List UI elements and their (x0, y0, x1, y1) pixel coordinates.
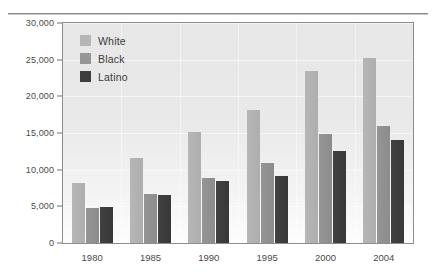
x-axis-tick-label: 2004 (373, 252, 394, 263)
x-axis-tick-label: 2000 (315, 252, 336, 263)
y-axis-tick-label: 25,000 (26, 55, 54, 65)
bar-latino-2000 (333, 151, 346, 243)
legend: White Black Latino (80, 33, 128, 87)
bar-black-1980 (86, 208, 99, 243)
bar-group-1990 (188, 23, 229, 243)
legend-item-latino: Latino (80, 69, 128, 84)
plot-vertical-divider (180, 23, 181, 243)
y-axis-tick-label: 10,000 (26, 165, 54, 175)
bar-white-1985 (130, 158, 143, 243)
plot-vertical-divider (355, 23, 356, 243)
bar-group-1995 (247, 23, 288, 243)
bar-black-1995 (261, 163, 274, 243)
legend-swatch-icon-white (80, 35, 91, 46)
bar-latino-1995 (275, 176, 288, 243)
x-axis: 198019851990199520002004 (62, 244, 414, 274)
bar-latino-1990 (216, 181, 229, 243)
y-axis-tick-label: 20,000 (26, 91, 54, 101)
bar-white-1990 (188, 132, 201, 243)
x-axis-tick-label: 1995 (257, 252, 278, 263)
legend-swatch-icon-black (80, 53, 91, 64)
legend-item-white: White (80, 33, 128, 48)
bar-latino-1985 (158, 195, 171, 243)
y-axis-tick-label: 0 (49, 238, 54, 248)
x-axis-tick-label: 1990 (198, 252, 219, 263)
plot-vertical-divider (296, 23, 297, 243)
bar-white-1980 (72, 183, 85, 243)
plot-vertical-divider (238, 23, 239, 243)
top-divider-rule (8, 13, 428, 15)
bar-latino-1980 (100, 207, 113, 243)
bar-white-1995 (247, 110, 260, 243)
bar-latino-2004 (391, 140, 404, 243)
bar-group-2004 (363, 23, 404, 243)
legend-label-latino: Latino (98, 71, 128, 83)
bar-white-2004 (363, 58, 376, 243)
bar-black-2000 (319, 134, 332, 243)
bar-group-2000 (305, 23, 346, 243)
legend-item-black: Black (80, 51, 128, 66)
y-axis-tick-label: 5,000 (31, 201, 54, 211)
legend-label-white: White (98, 35, 126, 47)
bar-black-1990 (202, 178, 215, 243)
legend-label-black: Black (98, 53, 125, 65)
x-axis-tick-label: 1985 (140, 252, 161, 263)
bar-chart: 05,00010,00015,00020,00025,00030,000 198… (0, 0, 435, 280)
y-axis-tick-label: 15,000 (26, 128, 54, 138)
bar-black-2004 (377, 126, 390, 243)
x-axis-tick-label: 1980 (82, 252, 103, 263)
bar-black-1985 (144, 194, 157, 243)
y-axis: 05,00010,00015,00020,00025,00030,000 (0, 22, 62, 244)
bar-white-2000 (305, 71, 318, 243)
bar-group-1985 (130, 23, 171, 243)
legend-swatch-icon-latino (80, 71, 91, 82)
y-axis-tick-label: 30,000 (26, 18, 54, 28)
